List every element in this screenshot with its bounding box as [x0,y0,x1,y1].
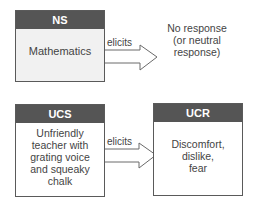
elicits-label-bottom: elicits [107,136,132,147]
ucs-title: UCS [16,105,104,123]
ucr-text: Discomfort, dislike, fear [154,138,242,174]
elicits-label-top: elicits [107,37,132,48]
ucr-line-1: Discomfort, [154,138,242,150]
ucs-box: UCS Unfriendly teacher with grating voic… [15,104,105,197]
ucr-box: UCR Discomfort, dislike, fear [153,103,243,196]
elicits-arrow-top [103,45,157,70]
ns-title: NS [16,11,104,29]
no-response-line-2: (or neutral [158,34,236,46]
ns-text: Mathematics [16,45,104,57]
ucs-line-5: chalk [16,175,104,187]
ucr-line-2: dislike, [154,150,242,162]
ucs-line-4: and squeaky [16,163,104,175]
ucs-line-1: Unfriendly [16,127,104,139]
ucs-line-2: teacher with [16,139,104,151]
no-response-line-1: No response [158,22,236,34]
no-response-line-3: response) [158,46,236,58]
no-response-text: No response (or neutral response) [158,22,236,58]
ns-box: NS Mathematics [15,10,105,82]
ucs-text: Unfriendly teacher with grating voice an… [16,127,104,187]
ucr-title: UCR [154,104,242,122]
ucr-line-3: fear [154,162,242,174]
ucs-line-3: grating voice [16,151,104,163]
